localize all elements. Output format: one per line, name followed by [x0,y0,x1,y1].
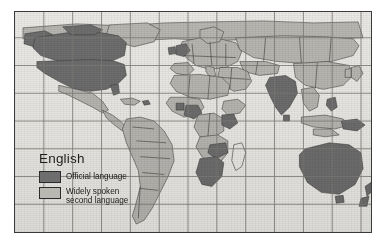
second-language-swatch [39,187,61,199]
legend-item-second: Widely spoken second language [39,186,128,206]
legend-label-second: Widely spoken second language [66,186,128,206]
figure-canvas: .off { fill:#6e6e6e; stroke:#3c3c3c; str… [0,0,390,250]
map-legend: English Official language Widely spoken … [39,152,128,209]
official-language-swatch [39,171,61,183]
legend-item-official: Official language [39,171,128,183]
legend-label-official: Official language [66,171,127,181]
world-map-frame: .off { fill:#6e6e6e; stroke:#3c3c3c; str… [14,11,372,233]
legend-title: English [39,152,128,166]
